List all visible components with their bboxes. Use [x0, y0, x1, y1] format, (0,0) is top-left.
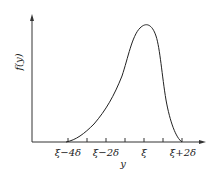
- tick-label-xi-minus-4delta: ξ−4δ: [55, 147, 81, 158]
- tick-label-xi-plus-2delta: ξ+2δ: [170, 147, 196, 158]
- tick-label-xi: ξ: [141, 147, 147, 158]
- tick-label-xi-minus-2delta: ξ−2δ: [93, 147, 119, 158]
- x-axis-arrow-icon: [199, 140, 206, 144]
- x-axis-label: y: [119, 158, 126, 169]
- density-curve: [66, 25, 182, 142]
- y-axis-arrow-icon: [30, 14, 34, 21]
- density-chart: ξ−4δ ξ−2δ ξ ξ+2δ y f(y): [0, 0, 216, 173]
- x-ticks: [68, 138, 182, 142]
- y-axis-label: f(y): [13, 53, 24, 71]
